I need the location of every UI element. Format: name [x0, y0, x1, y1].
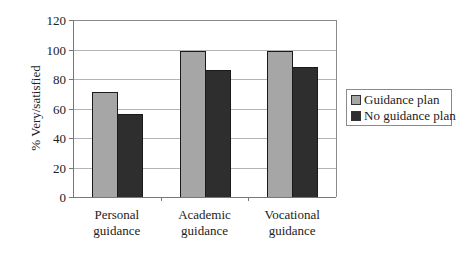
- legend-item-no-guidance-plan: No guidance plan: [351, 108, 447, 124]
- y-tick-labels: 020406080100120: [47, 13, 67, 205]
- legend-item-guidance-plan: Guidance plan: [351, 92, 447, 108]
- bar: [268, 52, 293, 198]
- x-category-label: Personal: [94, 207, 139, 222]
- legend-label: Guidance plan: [364, 92, 439, 108]
- bar: [206, 71, 231, 198]
- y-tick-label: 0: [60, 190, 67, 205]
- legend: Guidance plan No guidance plan: [346, 89, 452, 126]
- bars: [93, 52, 318, 198]
- bar: [293, 68, 318, 198]
- x-category-labels: PersonalguidanceAcademicguidanceVocation…: [93, 207, 320, 238]
- bar: [181, 52, 206, 198]
- y-tick-label: 40: [53, 131, 66, 146]
- bar: [93, 93, 118, 198]
- y-tick-label: 20: [53, 161, 66, 176]
- legend-label: No guidance plan: [364, 108, 456, 124]
- y-tick-label: 100: [47, 43, 67, 58]
- legend-swatch-no-guidance-plan: [351, 111, 361, 121]
- y-tick-label: 120: [47, 13, 67, 28]
- y-tick-label: 80: [53, 72, 66, 87]
- bar: [118, 115, 143, 198]
- y-tick-label: 60: [53, 102, 66, 117]
- y-axis-label: % Very/satisfied: [28, 65, 43, 151]
- x-category-label: guidance: [181, 223, 228, 238]
- legend-swatch-guidance-plan: [351, 95, 361, 105]
- x-category-label: Academic: [178, 207, 231, 222]
- x-category-label: guidance: [93, 223, 140, 238]
- x-category-label: Vocational: [264, 207, 320, 222]
- x-category-label: guidance: [269, 223, 316, 238]
- bar-chart: 020406080100120 PersonalguidanceAcademic…: [0, 0, 474, 254]
